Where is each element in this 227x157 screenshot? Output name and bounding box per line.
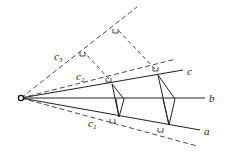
quadrilateral-2 — [158, 75, 175, 125]
perpendicular-lines — [84, 29, 155, 79]
label-c3: c3 — [54, 50, 63, 64]
line-c — [21, 70, 183, 98]
origin-point — [18, 95, 23, 100]
right-angle-mark-5 — [110, 119, 115, 123]
perpendicular-1 — [84, 52, 109, 79]
dashed-line-c1 — [21, 98, 197, 146]
dashed-line-c2 — [21, 59, 176, 98]
quad-inner-line-1 — [116, 99, 119, 117]
label-c: c — [187, 65, 192, 77]
quadrilaterals — [112, 75, 175, 125]
vector-projection-diagram: abcc1c2c3 — [0, 0, 227, 157]
perpendicular-2 — [117, 29, 155, 69]
label-b: b — [209, 92, 215, 104]
label-c1: c1 — [88, 117, 96, 131]
dashed-line-c3 — [21, 7, 137, 98]
label-c2: c2 — [76, 70, 85, 84]
quad-inner-line-2 — [163, 99, 169, 125]
label-a: a — [204, 125, 210, 137]
right-angle-mark-2 — [113, 29, 118, 33]
right-angle-mark-6 — [158, 128, 163, 132]
solid-axes — [21, 70, 205, 130]
line-labels: abcc1c2c3 — [54, 50, 215, 137]
line-a — [21, 98, 200, 130]
